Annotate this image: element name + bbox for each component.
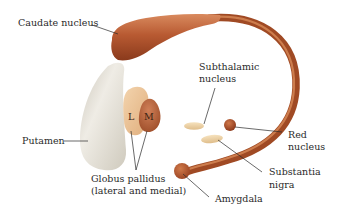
lateral-marker: L — [128, 111, 135, 122]
label-amygdala: Amygdala — [214, 193, 263, 204]
label-substantia-line1: Substantia — [269, 166, 321, 177]
label-substantia-line2: nigra — [269, 179, 295, 190]
leader-red-nucleus — [235, 127, 282, 132]
label-red-line1: Red — [288, 129, 307, 140]
label-globus-line1: Globus pallidus — [91, 173, 166, 184]
substantia-nigra — [201, 134, 224, 144]
subthalamic-nucleus — [184, 122, 204, 130]
basal-ganglia-diagram: L M Caudate nucleus Subthalamic nucleus … — [0, 0, 337, 214]
amygdala — [174, 163, 190, 179]
caudate-nucleus-body — [111, 14, 220, 60]
red-nucleus — [224, 119, 236, 131]
leader-subthalamic — [204, 88, 215, 124]
label-red-line2: nucleus — [288, 141, 325, 152]
label-globus-line2: (lateral and medial) — [91, 185, 186, 196]
label-subthalamic-line1: Subthalamic — [199, 61, 259, 72]
label-putamen: Putamen — [22, 135, 65, 146]
label-caudate-nucleus: Caudate nucleus — [18, 17, 99, 28]
putamen — [80, 63, 126, 171]
leader-amygdala — [183, 174, 209, 197]
label-subthalamic-line2: nucleus — [199, 73, 236, 84]
medial-marker: M — [144, 111, 154, 122]
leader-globus — [131, 131, 147, 170]
